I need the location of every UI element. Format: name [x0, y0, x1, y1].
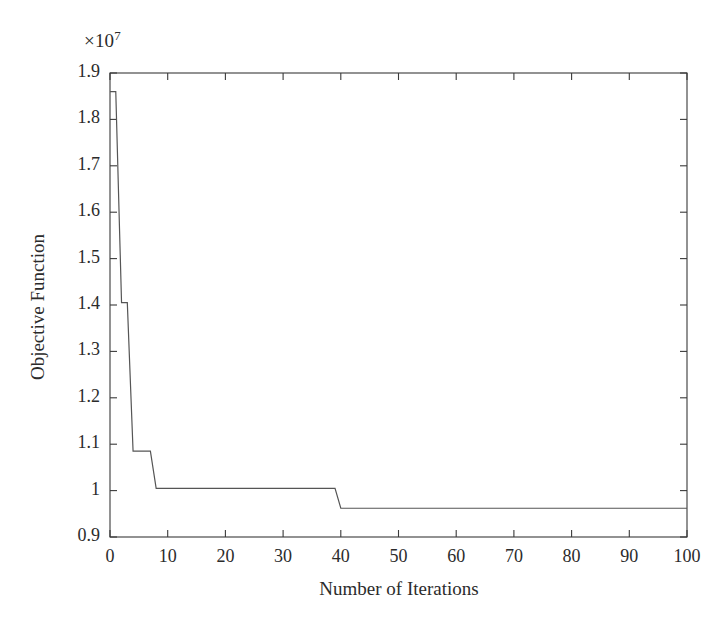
x-tick-label: 90: [599, 546, 659, 567]
y-tick-label: 1.6: [42, 200, 100, 221]
figure-canvas: ×107 0.911.11.21.31.41.51.61.71.81.9 010…: [0, 0, 728, 617]
y-tick-label: 1: [42, 479, 100, 500]
y-tick-label: 1.3: [42, 339, 100, 360]
y-tick-label: 1.5: [42, 247, 100, 268]
x-tick-label: 60: [426, 546, 486, 567]
chart-plot-area: [0, 0, 728, 617]
x-tick-label: 50: [369, 546, 429, 567]
x-tick-label: 20: [195, 546, 255, 567]
y-axis-title: Objective Function: [27, 207, 49, 407]
x-axis-title: Number of Iterations: [110, 578, 688, 600]
x-tick-label: 70: [484, 546, 544, 567]
y-tick-label: 1.7: [42, 154, 100, 175]
y-tick-label: 1.4: [42, 293, 100, 314]
x-tick-label: 100: [657, 546, 717, 567]
x-tick-label: 0: [80, 546, 140, 567]
x-tick-label: 30: [253, 546, 313, 567]
plot-frame-rect: [110, 73, 687, 537]
x-tick-label: 40: [311, 546, 371, 567]
y-tick-label: 0.9: [42, 525, 100, 546]
y-tick-label: 1.9: [42, 61, 100, 82]
x-tick-label: 80: [542, 546, 602, 567]
x-tick-label: 10: [138, 546, 198, 567]
y-tick-label: 1.8: [42, 107, 100, 128]
axes-frame: [110, 73, 687, 537]
y-tick-label: 1.1: [42, 432, 100, 453]
y-tick-label: 1.2: [42, 386, 100, 407]
